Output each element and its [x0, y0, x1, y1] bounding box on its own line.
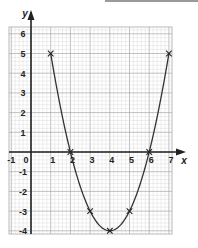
y-axis-arrow-icon: [28, 10, 35, 20]
y-tick-label: -2: [19, 187, 27, 197]
x-tick-label: 6: [149, 155, 154, 165]
y-tick-label: 2: [20, 108, 25, 118]
x-tick-label: -1: [7, 155, 15, 165]
y-tick-label: 5: [20, 49, 25, 59]
graph-paper-grid: [9, 27, 172, 234]
y-tick-label: -4: [19, 226, 27, 236]
x-tick-label: 3: [90, 155, 95, 165]
x-axis-label: x: [180, 155, 187, 166]
y-axis-label: y: [21, 8, 28, 19]
y-tick-label: 6: [20, 29, 25, 39]
y-tick-label: 4: [20, 69, 25, 79]
x-tick-label: 5: [129, 155, 134, 165]
x-tick-label: 0: [23, 155, 28, 165]
y-tick-label: 1: [20, 128, 25, 138]
graph-plot: -101234567-4-3-2-1123456xy: [0, 0, 198, 248]
x-tick-label: 2: [70, 155, 75, 165]
x-tick-label: 7: [168, 155, 173, 165]
x-tick-label: 4: [109, 155, 114, 165]
y-tick-label: -3: [19, 207, 27, 217]
y-tick-label: 3: [20, 88, 25, 98]
grid-border: [9, 27, 172, 234]
x-tick-label: 1: [50, 155, 55, 165]
y-tick-label: -1: [19, 167, 27, 177]
